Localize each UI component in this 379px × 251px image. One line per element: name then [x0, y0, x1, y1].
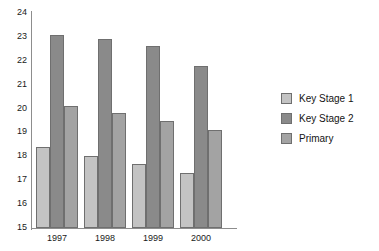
x-axis-line: [31, 228, 237, 229]
bar-1999-primary: [160, 121, 174, 229]
x-axis-tick-1997: 1997: [35, 233, 79, 244]
y-axis-tick-24: 24: [5, 8, 27, 17]
bar-1998-key-stage-2: [98, 39, 112, 228]
bar-1997-key-stage-1: [36, 147, 50, 228]
y-axis-tick-16: 16: [5, 199, 27, 208]
bar-1997-primary: [64, 106, 78, 228]
legend-item-primary[interactable]: Primary: [281, 128, 353, 148]
x-axis-tick-1999: 1999: [131, 233, 175, 244]
y-axis-tick-23: 23: [5, 32, 27, 41]
y-axis-tick-17: 17: [5, 175, 27, 184]
x-axis-tick-2000: 2000: [179, 233, 223, 244]
legend-swatch-icon: [281, 133, 292, 144]
y-axis-tick-15: 15: [5, 223, 27, 232]
bar-2000-key-stage-2: [194, 66, 208, 228]
y-axis-tick-20: 20: [5, 104, 27, 113]
legend-item-key-stage-2[interactable]: Key Stage 2: [281, 108, 353, 128]
y-axis-tick-18: 18: [5, 151, 27, 160]
legend-item-key-stage-1[interactable]: Key Stage 1: [281, 88, 353, 108]
bar-chart: 15161718192021222324 Key Stage 1Key Stag…: [0, 0, 379, 251]
bar-1999-key-stage-1: [132, 164, 146, 229]
legend-swatch-icon: [281, 93, 292, 104]
bar-1999-key-stage-2: [146, 46, 160, 228]
bar-group-1998: [84, 13, 126, 228]
y-axis-tick-22: 22: [5, 56, 27, 65]
bar-group-1997: [36, 13, 78, 228]
bar-2000-key-stage-1: [180, 173, 194, 228]
plot-area: [31, 13, 212, 228]
x-axis-tick-1998: 1998: [83, 233, 127, 244]
chart-legend: Key Stage 1Key Stage 2Primary: [281, 88, 353, 148]
bar-1997-key-stage-2: [50, 35, 64, 229]
y-axis-tick-19: 19: [5, 127, 27, 136]
legend-label: Key Stage 1: [299, 93, 353, 104]
bar-1998-key-stage-1: [84, 156, 98, 228]
y-axis-tick-labels: 15161718192021222324: [0, 0, 27, 251]
legend-swatch-icon: [281, 113, 292, 124]
y-axis-tick-21: 21: [5, 80, 27, 89]
legend-label: Primary: [299, 133, 333, 144]
bar-group-2000: [180, 13, 222, 228]
bar-group-1999: [132, 13, 174, 228]
bar-1998-primary: [112, 113, 126, 228]
legend-label: Key Stage 2: [299, 113, 353, 124]
bar-2000-primary: [208, 130, 222, 228]
